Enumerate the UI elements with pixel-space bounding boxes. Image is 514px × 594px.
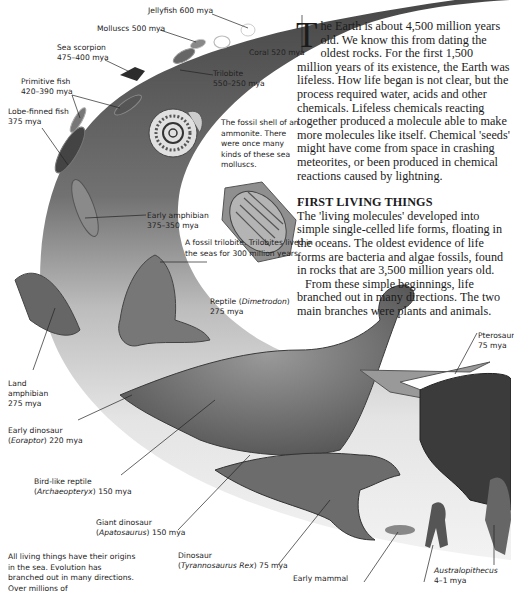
sea-scorpion-age: 475–400 mya (57, 53, 109, 63)
label-early-mammal: Early mammal (293, 574, 348, 584)
trex-name: Dinosaur (178, 551, 288, 561)
australopithecus-name: Australopithecus (434, 566, 498, 575)
reptile-species: Dimetrodon (242, 297, 287, 306)
pterosaur-name: Pterosaur (478, 331, 514, 341)
label-trilobite: Trilobite 550–250 mya (213, 69, 265, 89)
bird-age: ) 150 mya (93, 487, 132, 496)
land-amphibian-line1: Land (8, 379, 48, 389)
label-bird-like-reptile: Bird-like reptile (Archaeopteryx) 150 my… (34, 477, 132, 497)
pterosaur-age: 75 mya (478, 341, 514, 351)
early-dino-name: Early dinosaur (8, 426, 83, 436)
section-heading: FIRST LIVING THINGS (297, 196, 511, 210)
label-primitive-fish: Primitive fish 420–390 mya (21, 77, 73, 97)
label-early-amphibian: Early amphibian 375–350 mya (147, 211, 209, 231)
caption-ammonite: The fossil shell of an ammonite. There w… (221, 118, 301, 171)
trex-species: Tyrannosaurus Rex (181, 561, 254, 570)
label-land-amphibian: Land amphibian 275 mya (8, 379, 48, 409)
early-amphibian-age: 375–350 mya (147, 221, 209, 231)
label-reptile: Reptile (Dimetrodon) 275 mya (210, 297, 290, 317)
section-paragraph-2: From these simple beginnings, life branc… (297, 278, 511, 319)
label-australopithecus: Australopithecus 4–1 mya (434, 566, 498, 586)
caption-footer: All living things have their origins in … (8, 552, 136, 594)
lobe-fish-age: 375 mya (8, 117, 69, 127)
trex-age: ) 75 mya (254, 561, 288, 570)
land-amphibian-line2: amphibian (8, 389, 48, 399)
early-dino-species: Eoraptor (11, 436, 44, 445)
early-dino-age: ) 220 mya (44, 436, 83, 445)
trilobite-name: Trilobite (213, 69, 265, 79)
label-giant-dinosaur: Giant dinosaur (Apatosaurus) 150 mya (96, 518, 185, 538)
intro-text: he Earth is about 4,500 million years ol… (297, 19, 510, 183)
label-pterosaur: Pterosaur 75 mya (478, 331, 514, 351)
trilobite-age: 550–250 mya (213, 79, 265, 89)
reptile-close-paren: ) (287, 297, 290, 306)
article-body: The Earth is about 4,500 million years o… (297, 20, 511, 318)
label-lobe-finned-fish: Lobe-finned fish 375 mya (8, 107, 69, 127)
reptile-age: 275 mya (210, 307, 290, 317)
reptile-name: Reptile ( (210, 297, 242, 306)
bird-name: Bird-like reptile (34, 477, 132, 487)
label-trex: Dinosaur (Tyrannosaurus Rex) 75 mya (178, 551, 288, 571)
caption-trilobite-fossil: A fossil trilobite. Trilobites lived in … (185, 238, 313, 259)
bird-species: Archaeopteryx (37, 487, 93, 496)
giant-name: Giant dinosaur (96, 518, 185, 528)
sea-scorpion-name: Sea scorpion (57, 43, 109, 53)
primitive-fish-name: Primitive fish (21, 77, 73, 87)
lobe-fish-name: Lobe-finned fish (8, 107, 69, 117)
label-sea-scorpion: Sea scorpion 475–400 mya (57, 43, 109, 63)
australopithecus-age: 4–1 mya (434, 576, 498, 586)
label-jellyfish: Jellyfish 600 mya (148, 6, 213, 16)
intro-paragraph: The Earth is about 4,500 million years o… (297, 20, 511, 183)
giant-species: Apatosaurus (99, 528, 147, 537)
label-early-dinosaur: Early dinosaur (Eoraptor) 220 mya (8, 426, 83, 446)
land-amphibian-age: 275 mya (8, 399, 48, 409)
primitive-fish-age: 420–390 mya (21, 87, 73, 97)
section-paragraph-1: The 'living molecules' developed into si… (297, 210, 511, 278)
giant-age: ) 150 mya (147, 528, 186, 537)
drop-cap: T (296, 22, 317, 49)
early-amphibian-name: Early amphibian (147, 211, 209, 221)
label-molluscs: Molluscs 500 mya (97, 24, 165, 34)
